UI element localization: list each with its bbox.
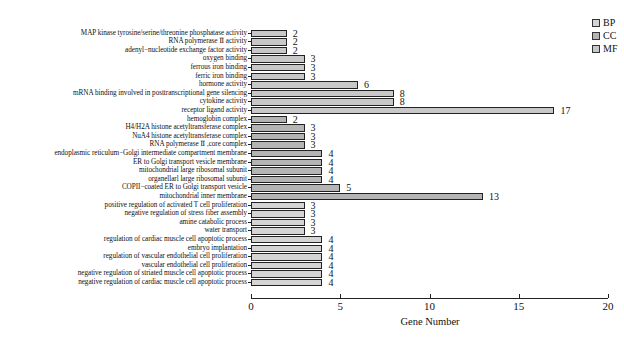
legend-label-mf: MF xyxy=(603,43,617,54)
bar-bp xyxy=(251,210,305,218)
bar-bp xyxy=(251,202,305,210)
x-tick xyxy=(340,294,341,298)
value-label: 8 xyxy=(400,98,405,106)
category-label: H4/H2A histone acetyltransferase complex xyxy=(0,123,247,131)
category-label: receptor ligand activity xyxy=(0,106,247,114)
category-label: ferrous iron binding xyxy=(0,63,247,71)
x-tick-label: 0 xyxy=(236,300,266,312)
bar-bp xyxy=(251,245,322,253)
bar-bp xyxy=(251,270,322,278)
bar-bp xyxy=(251,253,322,261)
bar-cc xyxy=(251,133,305,141)
category-label: hemoglobin complex xyxy=(0,115,247,123)
legend-item-bp: BP xyxy=(592,16,617,29)
legend-swatch-mf xyxy=(592,45,600,53)
x-tick-label: 15 xyxy=(504,300,534,312)
bar-mf xyxy=(251,55,305,63)
category-label: NuA4 histone acetyltransferase complex xyxy=(0,132,247,140)
bar-mf xyxy=(251,64,305,72)
category-label: amine catabolic process xyxy=(0,218,247,226)
legend-label-cc: CC xyxy=(603,30,616,41)
category-label: water transport xyxy=(0,226,247,234)
legend-label-bp: BP xyxy=(603,17,615,28)
value-label: 2 xyxy=(293,116,298,124)
category-label: ferric iron binding xyxy=(0,72,247,80)
category-label: mitochondrial inner membrane xyxy=(0,192,247,200)
category-label: oxygen binding xyxy=(0,54,247,62)
category-label: MAP kinase tyrosine/serine/threonine pho… xyxy=(0,29,247,37)
bar-cc xyxy=(251,184,340,192)
bar-mf xyxy=(251,38,287,46)
category-label: positive regulation of activated T cell … xyxy=(0,201,247,209)
value-label: 3 xyxy=(311,73,316,81)
x-tick xyxy=(251,294,252,298)
x-tick-label: 10 xyxy=(415,300,445,312)
category-label: hormone activity xyxy=(0,80,247,88)
legend-swatch-bp xyxy=(592,19,600,27)
value-label: 4 xyxy=(328,176,333,184)
go-enrichment-bar-chart: MAP kinase tyrosine/serine/threonine pho… xyxy=(0,0,624,339)
category-label: regulation of cardiac muscle cell apopto… xyxy=(0,235,247,243)
bar-mf xyxy=(251,81,358,89)
bar-cc xyxy=(251,167,322,175)
x-tick-label: 5 xyxy=(325,300,355,312)
value-label: 17 xyxy=(560,107,570,115)
x-tick-label: 20 xyxy=(593,300,623,312)
category-label: mRNA binding involved in posttranscripti… xyxy=(0,89,247,97)
value-label: 3 xyxy=(311,141,316,149)
value-label: 6 xyxy=(364,81,369,89)
legend-swatch-cc xyxy=(592,32,600,40)
category-label: cytokine activity xyxy=(0,97,247,105)
legend-item-mf: MF xyxy=(592,42,617,55)
value-label: 5 xyxy=(346,184,351,192)
bar-mf xyxy=(251,90,394,98)
category-label: ER to Golgi transport vesicle membrane xyxy=(0,158,247,166)
bar-cc xyxy=(251,116,287,124)
category-label: regulation of vascular endothelial cell … xyxy=(0,252,247,260)
value-label: 3 xyxy=(311,227,316,235)
bar-cc xyxy=(251,124,305,132)
category-label: mitochondrial large ribosomal subunit xyxy=(0,166,247,174)
bar-cc xyxy=(251,150,322,158)
category-label: embryo implantation xyxy=(0,244,247,252)
x-tick xyxy=(430,294,431,298)
bar-mf xyxy=(251,73,305,81)
x-tick xyxy=(519,294,520,298)
bar-cc xyxy=(251,176,322,184)
bar-mf xyxy=(251,30,287,38)
category-label: COPII−coated ER to Golgi transport vesic… xyxy=(0,183,247,191)
value-label: 4 xyxy=(328,279,333,287)
bar-bp xyxy=(251,219,305,227)
value-label: 13 xyxy=(489,193,499,201)
bar-bp xyxy=(251,236,322,244)
bar-cc xyxy=(251,193,483,201)
bar-cc xyxy=(251,141,305,149)
category-label: endoplasmic reticulum−Golgi intermediate… xyxy=(0,149,247,157)
bar-mf xyxy=(251,47,287,55)
x-axis-label: Gene Number xyxy=(380,316,480,327)
legend-item-cc: CC xyxy=(592,29,617,42)
category-label: negative regulation of stress fiber asse… xyxy=(0,209,247,217)
bar-bp xyxy=(251,262,322,270)
category-label: vascular endothelial cell proliferation xyxy=(0,261,247,269)
category-label: organellarl large ribosomal subunit xyxy=(0,175,247,183)
category-label: RNA polymerase Ⅱ activity xyxy=(0,37,247,45)
bar-bp xyxy=(251,279,322,287)
x-tick xyxy=(608,294,609,298)
bar-bp xyxy=(251,227,305,235)
bar-cc xyxy=(251,159,322,167)
category-label: negative regulation of striated muscle c… xyxy=(0,269,247,277)
category-label: adenyl−nucleotide exchange factor activi… xyxy=(0,46,247,54)
value-label: 2 xyxy=(293,47,298,55)
category-label: RNA polymerase Ⅱ ,core complex xyxy=(0,140,247,148)
bar-mf xyxy=(251,98,394,106)
category-label: negative regulation of cardiac muscle ce… xyxy=(0,278,247,286)
legend: BP CC MF xyxy=(592,16,617,55)
x-axis-line xyxy=(251,298,608,299)
